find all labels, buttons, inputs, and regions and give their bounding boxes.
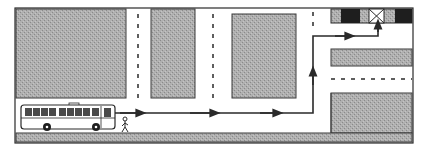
bus-icon (21, 103, 115, 131)
destination-x-icon (369, 9, 384, 23)
destination-row (331, 9, 412, 23)
dark-building (341, 9, 360, 23)
block-right-middle (331, 49, 412, 66)
route-diagram: Street map showing a bus at a stop, a pe… (0, 0, 425, 147)
bus-windows (25, 108, 111, 117)
block-top-center (232, 14, 296, 98)
sidewalk-bottom (16, 133, 412, 142)
block-top-middle (151, 9, 195, 98)
block-right-bottom (331, 93, 412, 133)
block-top-left (16, 9, 126, 98)
dark-building (395, 9, 412, 23)
